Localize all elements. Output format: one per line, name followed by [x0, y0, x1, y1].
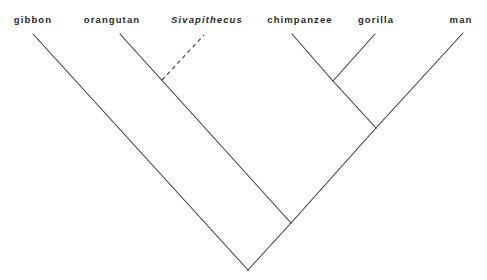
- branches: [33, 33, 463, 270]
- branch-root-gibbon: [33, 34, 248, 270]
- taxon-label-chimpanzee: chimpanzee: [267, 14, 332, 25]
- taxon-label-man: man: [450, 14, 473, 25]
- cladogram: gibbonorangutanSivapithecuschimpanzeegor…: [0, 0, 487, 280]
- taxon-label-gorilla: gorilla: [358, 14, 394, 25]
- taxon-label-gibbon: gibbon: [14, 14, 52, 25]
- branch-chimp_gorilla-chimpanzee: [292, 34, 333, 81]
- branch-great_apes-african_apes: [291, 128, 376, 223]
- branch-african_apes-chimp_gorilla: [333, 81, 376, 128]
- branch-great_apes-orangutan: [120, 34, 291, 223]
- branch-sivapithecus_attach-sivapithecus: [162, 35, 204, 80]
- branch-root-great_apes: [248, 223, 291, 270]
- branch-chimp_gorilla-gorilla: [333, 34, 375, 81]
- taxon-label-sivapithecus: Sivapithecus: [171, 14, 243, 25]
- taxon-labels: gibbonorangutanSivapithecuschimpanzeegor…: [14, 14, 473, 25]
- branch-african_apes-man: [376, 33, 463, 128]
- taxon-label-orangutan: orangutan: [84, 14, 140, 25]
